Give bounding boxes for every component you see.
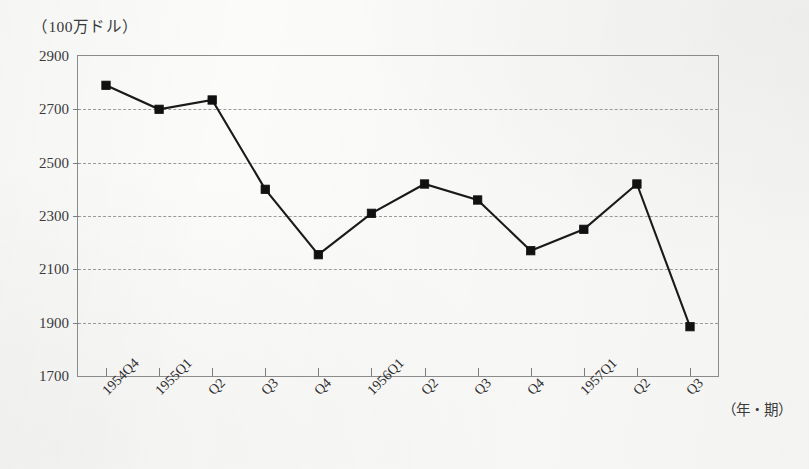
y-axis-tick-label: 2500 (39, 155, 69, 170)
y-axis-tick-label: 2700 (39, 102, 69, 117)
x-axis-tick-label: Q4 (312, 376, 334, 398)
data-point-marker (420, 180, 428, 188)
x-axis-tick-label: Q2 (419, 376, 441, 398)
chart-page: （100万ドル） 2900270025002300210019001700 19… (0, 0, 809, 469)
x-axis-title-label: （年・期） (722, 398, 792, 419)
x-axis-tick-label: Q3 (259, 376, 281, 398)
x-axis-tick-label: Q2 (631, 376, 653, 398)
data-point-marker (102, 81, 110, 89)
x-axis-tick-label: Q3 (684, 376, 706, 398)
data-point-marker (527, 246, 535, 254)
y-axis-tick-label: 2300 (39, 209, 69, 224)
data-point-marker (314, 250, 322, 258)
plot-inner: 2900270025002300210019001700 1954Q41955Q… (78, 56, 718, 376)
plot-area: 2900270025002300210019001700 1954Q41955Q… (77, 55, 719, 377)
data-point-marker (473, 196, 481, 204)
series-line (106, 85, 690, 326)
series-layer (78, 56, 718, 376)
x-axis-tick-label: Q3 (472, 376, 494, 398)
data-point-marker (261, 185, 269, 193)
y-axis-tick-label: 2900 (39, 49, 69, 64)
data-point-marker (633, 180, 641, 188)
data-point-marker (155, 105, 163, 113)
y-axis-tick-label: 2100 (39, 262, 69, 277)
y-axis-tick-label: 1900 (39, 315, 69, 330)
data-point-marker (367, 209, 375, 217)
x-axis-tick-label: Q2 (206, 376, 228, 398)
data-point-marker (686, 322, 694, 330)
y-axis-unit-label: （100万ドル） (32, 14, 138, 36)
x-axis-tick-label: Q4 (525, 376, 547, 398)
y-axis-tick-label: 1700 (39, 369, 69, 384)
data-point-marker (580, 225, 588, 233)
data-point-marker (208, 96, 216, 104)
